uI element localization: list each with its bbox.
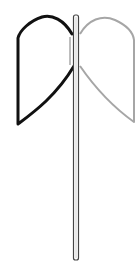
left-wing-shape: [18, 16, 74, 124]
flag-diagram: [0, 0, 140, 280]
right-wing-shape: [80, 18, 134, 122]
diagram-canvas: [0, 0, 140, 280]
